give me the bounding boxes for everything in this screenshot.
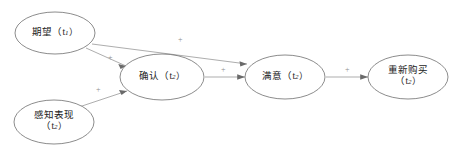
- arrowhead: [237, 74, 245, 79]
- node-satisfaction[interactable]: [245, 55, 325, 99]
- path-diagram: 期望（t1） 感知表现 （t2） 确认（t2） 满意（t2） 重新购买 （t2）…: [0, 0, 455, 156]
- edge-line: [76, 91, 127, 108]
- arrowhead: [240, 61, 248, 66]
- edge-perceived-performance-to-confirmation: [76, 90, 127, 108]
- edge-expectation-to-confirmation: [86, 48, 126, 69]
- node-confirmation[interactable]: [120, 54, 204, 100]
- edge-satisfaction-to-repurchase: [326, 74, 368, 79]
- arrowhead: [119, 90, 127, 95]
- arrowhead: [360, 74, 368, 79]
- edge-line: [86, 48, 126, 66]
- node-perceived-performance[interactable]: [14, 100, 94, 144]
- node-repurchase[interactable]: [368, 55, 448, 99]
- node-expectation[interactable]: [15, 12, 95, 54]
- diagram-canvas: [0, 0, 455, 156]
- edge-confirmation-to-satisfaction: [205, 74, 245, 79]
